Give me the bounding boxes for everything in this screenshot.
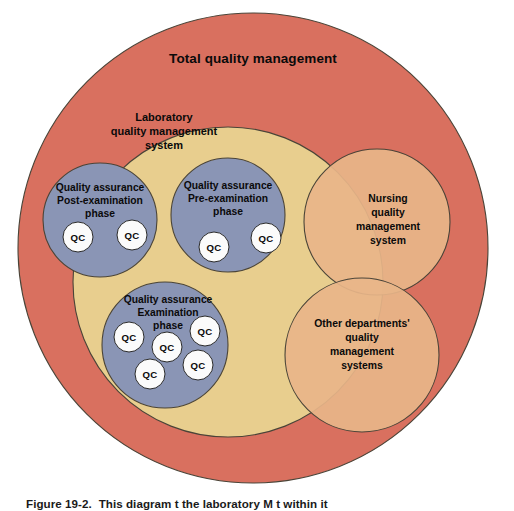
qa-examination-label-line-1: Quality assurance: [124, 294, 213, 305]
qa-post-examination-label-line-1: Quality assurance: [56, 182, 145, 193]
qa-examination-label-line-2: Examination: [137, 307, 198, 318]
total-quality-management-label: Total quality management: [169, 51, 337, 66]
figure-caption-label: Figure 19-2.: [26, 497, 92, 510]
qa-pre-examination-label-line-2: Pre-examination: [188, 193, 268, 204]
qc-bubble-label: QC: [207, 242, 222, 253]
qa-pre-examination-label-line-3: phase: [213, 206, 243, 217]
circle-quality-assurance-examination[interactable]: Quality assurance Examination phase QC Q…: [102, 282, 228, 408]
qc-bubble-label: QC: [143, 369, 158, 380]
laboratory-qms-label-line-2: quality management: [111, 125, 218, 137]
qc-bubble-label: QC: [198, 326, 213, 337]
figure-caption: Figure 19-2.This diagram t the laborator…: [26, 496, 496, 511]
other-departments-qms-label-line-1: Other departments': [314, 318, 409, 329]
qa-post-examination-shape: [43, 163, 157, 277]
figure-caption-text: This diagram t the laboratory M t within…: [99, 497, 328, 510]
qa-post-examination-label-line-3: phase: [85, 208, 115, 219]
qc-bubble-label: QC: [71, 232, 86, 243]
nursing-qms-label-line-1: Nursing: [368, 193, 407, 204]
nursing-qms-label-line-3: management: [356, 221, 421, 232]
circle-quality-assurance-post-examination[interactable]: Quality assurance Post-examination phase…: [43, 163, 157, 277]
laboratory-qms-label-line-1: Laboratory: [135, 111, 193, 123]
nursing-qms-label-line-2: quality: [371, 207, 405, 218]
circle-nursing-quality-management-system[interactable]: Nursing quality management system: [304, 149, 450, 295]
qc-bubble-label: QC: [191, 360, 206, 371]
other-departments-qms-label-line-3: management: [330, 346, 395, 357]
qa-post-examination-label-line-2: Post-examination: [57, 195, 143, 206]
qc-bubble-label: QC: [160, 342, 175, 353]
other-departments-qms-label-line-4: systems: [341, 360, 383, 371]
qc-bubble-label: QC: [259, 233, 274, 244]
qa-pre-examination-label-line-1: Quality assurance: [184, 180, 273, 191]
circle-other-departments-quality-management-systems[interactable]: Other departments' quality management sy…: [285, 278, 439, 432]
qa-examination-label-line-3: phase: [153, 320, 183, 331]
laboratory-qms-label-line-3: system: [145, 139, 183, 151]
qc-bubble-label: QC: [125, 230, 140, 241]
circle-quality-assurance-pre-examination[interactable]: Quality assurance Pre-examination phase …: [171, 158, 285, 272]
nursing-qms-label-line-4: system: [370, 235, 406, 246]
other-departments-qms-label-line-2: quality: [345, 332, 379, 343]
qc-bubble-label: QC: [122, 332, 137, 343]
